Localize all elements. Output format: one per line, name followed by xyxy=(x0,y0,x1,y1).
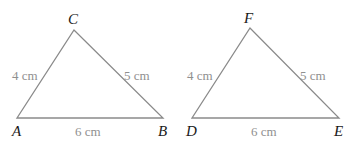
vertex-label-b: B xyxy=(158,123,167,139)
vertex-label-e: E xyxy=(333,123,343,139)
vertex-label-a: A xyxy=(11,123,22,139)
side-label-df: 4 cm xyxy=(187,68,213,83)
side-label-fe: 5 cm xyxy=(300,68,326,83)
vertex-label-d: D xyxy=(185,123,197,139)
side-label-ab: 6 cm xyxy=(75,124,101,139)
triangle-abc: A B C 4 cm 5 cm 6 cm xyxy=(11,11,167,139)
diagram: A B C 4 cm 5 cm 6 cm D E F 4 cm 5 cm 6 c… xyxy=(0,0,354,143)
side-label-de: 6 cm xyxy=(251,124,277,139)
vertex-label-f: F xyxy=(243,10,254,26)
vertex-label-c: C xyxy=(68,11,79,27)
side-label-cb: 5 cm xyxy=(124,68,150,83)
triangle-def: D E F 4 cm 5 cm 6 cm xyxy=(185,10,343,139)
side-label-ac: 4 cm xyxy=(12,68,38,83)
